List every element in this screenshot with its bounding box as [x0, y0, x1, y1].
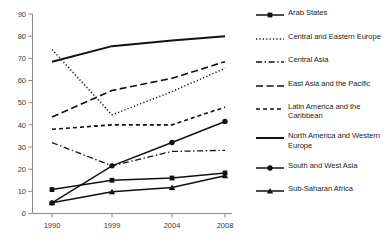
x-axis-ticks [52, 214, 225, 218]
legend-item[interactable]: South and West Asia [255, 161, 386, 174]
y-tick-label: 70 [18, 54, 26, 63]
y-tick-label: 40 [18, 121, 26, 130]
series-line [52, 143, 225, 166]
data-point-marker-circle [169, 140, 174, 145]
legend-line-swatch [255, 56, 285, 68]
legend-item-label: Sub-Saharan Africa [288, 184, 353, 193]
series-line [52, 107, 225, 129]
x-tick-label: 1990 [44, 221, 61, 230]
legend-item[interactable]: Central and Eastern Europe [255, 32, 386, 45]
legend-line-swatch [255, 80, 285, 92]
series-central-and-eastern-europe [52, 49, 225, 114]
y-tick-label: 90 [18, 10, 26, 19]
legend-line-swatch [255, 162, 285, 174]
legend-item[interactable]: Sub-Saharan Africa [255, 184, 386, 197]
legend-item-label: South and West Asia [288, 161, 357, 170]
x-axis-tick-labels: 1990199920042008 [44, 221, 234, 230]
data-point-marker-square [268, 13, 273, 18]
series-line [52, 36, 225, 61]
y-tick-label: 50 [18, 98, 26, 107]
y-axis-tick-labels: 0102030405060708090 [18, 10, 26, 219]
legend-item-label: Arab States [288, 8, 327, 17]
data-point-marker-circle [109, 163, 114, 168]
chart-legend: Arab StatesCentral and Eastern EuropeCen… [255, 8, 386, 208]
legend-item-label: Central and Eastern Europe [288, 32, 381, 41]
legend-item[interactable]: Arab States [255, 8, 386, 21]
x-tick-label: 2004 [164, 221, 181, 230]
y-axis: 0102030405060708090 [18, 10, 33, 219]
legend-item[interactable]: North America and Western Europe [255, 131, 386, 150]
legend-line-swatch [255, 33, 285, 45]
line-chart-plot: 0102030405060708090 1990199920042008 [0, 0, 255, 242]
series-central-asia [52, 143, 225, 166]
series-north-america-and-western-europe [52, 36, 225, 61]
series-layer [49, 36, 228, 205]
series-east-asia-and-the-pacific [52, 62, 225, 117]
x-axis: 1990199920042008 [33, 214, 234, 231]
data-point-marker-square [170, 176, 175, 181]
legend-item[interactable]: Central Asia [255, 55, 386, 68]
legend-item[interactable]: Latin America and the Caribbean [255, 102, 386, 121]
series-latin-america-and-the-caribbean [52, 107, 225, 129]
y-tick-label: 80 [18, 32, 26, 41]
y-tick-label: 20 [18, 165, 26, 174]
series-line [52, 49, 225, 114]
chart-root: 0102030405060708090 1990199920042008 Ara… [0, 0, 386, 242]
legend-item-label: East Asia and the Pacific [288, 79, 370, 88]
legend-item-label: Central Asia [288, 55, 328, 64]
legend-line-swatch [255, 9, 285, 21]
y-axis-ticks [29, 14, 33, 214]
legend-item[interactable]: East Asia and the Pacific [255, 79, 386, 92]
y-tick-label: 30 [18, 143, 26, 152]
legend-line-swatch [255, 132, 285, 144]
data-point-marker-square [50, 187, 55, 192]
y-tick-label: 10 [18, 187, 26, 196]
y-tick-label: 60 [18, 76, 26, 85]
series-line [52, 62, 225, 117]
x-tick-label: 2008 [217, 221, 234, 230]
series-south-and-west-asia [49, 119, 227, 206]
y-tick-label: 0 [22, 209, 26, 218]
legend-item-label: Latin America and the Caribbean [288, 102, 386, 121]
legend-line-swatch [255, 103, 285, 115]
data-point-marker-square [110, 178, 115, 183]
legend-line-swatch [255, 185, 285, 197]
data-point-marker-circle [222, 119, 227, 124]
data-point-marker-circle [267, 165, 272, 170]
legend-item-label: North America and Western Europe [288, 131, 386, 150]
x-tick-label: 1999 [104, 221, 121, 230]
